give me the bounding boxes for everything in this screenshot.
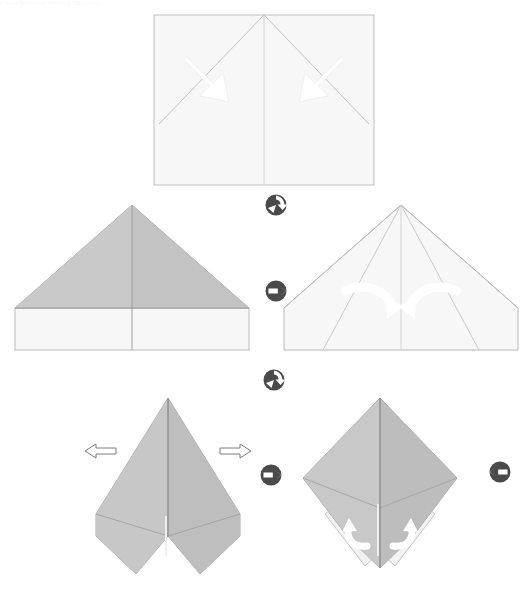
step-5-figure — [295, 396, 465, 582]
step-1-diagram — [153, 14, 375, 186]
step-5-diagram — [295, 396, 465, 582]
flip-icon-step4-step5[interactable] — [258, 462, 284, 488]
step-4-figure — [88, 396, 248, 578]
rotate-icon-step3-step4[interactable] — [261, 367, 287, 393]
page-header-text: Paper Airplane Folding Diagram — [0, 0, 527, 6]
flip-horizontal-icon[interactable] — [258, 462, 284, 488]
step-1-figure — [153, 14, 375, 186]
pull-arrow-left — [85, 444, 116, 458]
pull-arrow-right — [220, 444, 251, 458]
left-dart-half — [96, 398, 168, 574]
instruction-sheet: Paper Airplane Folding Diagram — [0, 0, 527, 603]
step-2-diagram — [14, 203, 250, 351]
flip-horizontal-left-icon[interactable] — [487, 459, 513, 485]
rotate-icon[interactable] — [261, 367, 287, 393]
right-dart-half — [168, 398, 240, 574]
step-3-figure — [283, 203, 519, 351]
step-3-diagram — [283, 203, 519, 351]
step-4-diagram — [88, 396, 248, 578]
step-2-figure — [14, 203, 250, 351]
flip-icon-step5-next[interactable] — [487, 459, 513, 485]
